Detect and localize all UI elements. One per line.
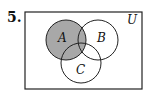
venn-diagram: A B C U <box>0 0 149 91</box>
universe-label: U <box>127 13 138 27</box>
set-b-label: B <box>96 31 106 45</box>
set-a-label: A <box>57 31 67 45</box>
set-c-label: C <box>76 63 85 77</box>
